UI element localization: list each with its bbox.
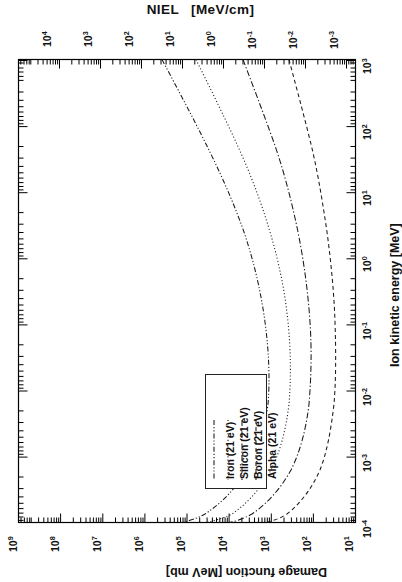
- right-tick-label-5: 10-2: [362, 388, 373, 406]
- top-tick-label-7: 10-3: [329, 31, 340, 49]
- top-tick-label-0: 104: [42, 31, 53, 47]
- bottom-tick-label-3: 106: [134, 536, 145, 552]
- right-tick-label-6: 10-3: [362, 454, 373, 472]
- bottom-tick-label-7: 102: [302, 536, 313, 552]
- legend-sample-boron: [239, 419, 245, 481]
- right-tick-label-3: 100: [362, 256, 373, 272]
- bottom-tick-label-6: 103: [260, 536, 271, 552]
- legend-sample-alpha: [253, 419, 259, 481]
- bottom-tick-label-1: 108: [50, 536, 61, 552]
- bottom-tick-label-8: 101: [344, 536, 355, 552]
- legend-entry-alpha[interactable]: Alpha (21 eV): [253, 375, 267, 488]
- right-tick-label-4: 10-1: [362, 322, 373, 340]
- legend-entry-boron[interactable]: Boron (21 eV): [239, 375, 253, 488]
- top-tick-label-2: 102: [124, 31, 135, 47]
- top-tick-label-3: 101: [165, 31, 176, 47]
- right-tick-label-7: 10-4: [362, 520, 373, 538]
- legend-entry-silicon[interactable]: Silicon (21 eV): [225, 375, 239, 488]
- legend-entry-iron[interactable]: Iron (21 eV): [211, 375, 225, 488]
- axis-title-ion-energy: Ion kinetic energy [MeV]: [388, 223, 402, 367]
- bottom-tick-label-0: 109: [8, 536, 19, 552]
- top-tick-label-6: 10-2: [288, 31, 299, 49]
- legend-sample-silicon: [225, 419, 231, 481]
- right-tick-label-1: 102: [362, 124, 373, 140]
- bottom-tick-label-5: 104: [218, 536, 229, 552]
- top-tick-label-5: 10-1: [247, 31, 258, 49]
- right-tick-label-2: 101: [362, 190, 373, 206]
- right-tick-label-0: 103: [362, 58, 373, 74]
- legend-sample-iron: [211, 419, 217, 481]
- legend-label-alpha: Alpha (21 eV): [266, 412, 278, 479]
- bottom-tick-label-4: 105: [176, 536, 187, 552]
- legend: Iron (21 eV) Silicon (21 eV) Boron (21 e…: [205, 374, 267, 489]
- bottom-tick-label-2: 107: [92, 536, 103, 552]
- top-tick-label-1: 103: [83, 31, 94, 47]
- axis-title-damage-function: Damage function [MeV mb]: [166, 565, 327, 579]
- plot-frame: [19, 60, 356, 523]
- top-tick-label-4: 100: [206, 31, 217, 47]
